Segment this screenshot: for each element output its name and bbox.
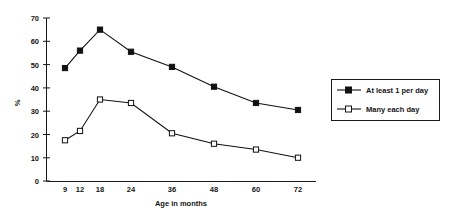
y-tick-label: 60 — [31, 37, 39, 46]
x-tick-label: 18 — [96, 185, 104, 194]
x-tick-label: 72 — [294, 185, 302, 194]
open-square-icon — [346, 106, 352, 112]
data-point-open-square — [97, 97, 102, 102]
legend-item-at-least-1-per-day: At least 1 per day — [337, 86, 429, 95]
x-tick-label: 60 — [252, 185, 260, 194]
legend-label: At least 1 per day — [366, 86, 429, 95]
data-point-filled-square — [253, 100, 258, 105]
y-tick-label: 20 — [31, 131, 39, 140]
filled-square-icon — [346, 87, 352, 93]
data-point-open-square — [169, 131, 174, 136]
y-tick-label: 30 — [31, 107, 39, 116]
data-point-open-square — [295, 155, 300, 160]
y-axis-title: % — [13, 99, 22, 106]
data-point-filled-square — [211, 84, 216, 89]
x-axis-title: Age in months — [155, 199, 207, 208]
legend: At least 1 per day Many each day — [332, 80, 440, 121]
data-point-filled-square — [62, 65, 67, 70]
legend-item-many-each-day: Many each day — [337, 105, 420, 114]
data-point-filled-square — [77, 48, 82, 53]
data-point-filled-square — [169, 64, 174, 69]
data-point-filled-square — [128, 49, 133, 54]
y-tick-label: 0 — [35, 177, 39, 186]
x-tick-label: 48 — [210, 185, 218, 194]
data-point-filled-square — [97, 27, 102, 32]
data-point-open-square — [253, 147, 258, 152]
data-point-open-square — [77, 128, 82, 133]
x-tick-label: 36 — [168, 185, 176, 194]
line-chart: 70 60 50 40 30 20 10 0 % 9 12 18 24 36 4… — [0, 0, 449, 220]
data-point-open-square — [128, 100, 133, 105]
legend-label: Many each day — [366, 105, 420, 114]
y-tick-label: 40 — [31, 84, 39, 93]
x-tick-label: 12 — [76, 185, 84, 194]
y-tick-label: 70 — [31, 14, 39, 23]
y-tick-label: 50 — [31, 61, 39, 70]
data-point-open-square — [211, 141, 216, 146]
data-point-open-square — [62, 138, 67, 143]
x-tick-label: 24 — [127, 185, 136, 194]
x-tick-label: 9 — [63, 185, 67, 194]
y-tick-label: 10 — [31, 154, 39, 163]
data-point-filled-square — [295, 107, 300, 112]
chart-canvas: 70 60 50 40 30 20 10 0 % 9 12 18 24 36 4… — [0, 0, 449, 220]
